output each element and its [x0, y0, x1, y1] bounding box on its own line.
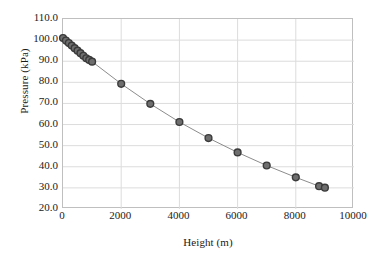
x-tick-label: 2000	[90, 210, 150, 221]
x-tick-label: 8000	[265, 210, 325, 221]
x-axis-tick-labels: 0200040006000800010000	[0, 0, 379, 259]
x-axis-title: Height (m)	[62, 236, 354, 248]
pressure-vs-height-chart: Pressure (kPa) 20.030.040.050.060.070.08…	[0, 0, 379, 259]
x-tick-label: 10000	[323, 210, 379, 221]
x-tick-label: 6000	[207, 210, 267, 221]
x-tick-label: 4000	[148, 210, 208, 221]
x-tick-label: 0	[32, 210, 92, 221]
